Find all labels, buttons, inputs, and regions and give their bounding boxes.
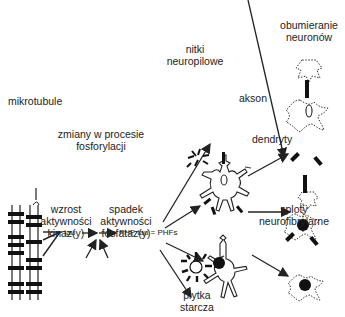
label-spadek-line2: aktywności xyxy=(96,215,156,227)
label-wzrost-line1: wzrost xyxy=(36,203,96,215)
label-akson: akson xyxy=(239,92,267,104)
label-spadek: spadek aktywności fosfataz(y) xyxy=(96,203,156,239)
label-nitki: nitki neuropilowe xyxy=(165,43,225,67)
label-plytka-line1: płytka xyxy=(172,289,222,301)
label-obumieranie-line1: obumieranie xyxy=(276,19,342,31)
label-spadek-line1: spadek xyxy=(96,203,156,215)
label-wzrost-line2: aktywności xyxy=(36,215,96,227)
label-plytka-line2: starcza xyxy=(172,301,222,313)
label-obumieranie-line2: neuronów xyxy=(276,31,342,43)
label-sploty-line2: neurofibrylarne xyxy=(249,215,339,227)
label-zmiany: zmiany w procesie fosforylacji xyxy=(56,128,146,152)
label-sploty-line1: sploty xyxy=(249,203,339,215)
label-dendryty: dendryty xyxy=(252,133,292,145)
senile-plaque-icon xyxy=(181,252,212,282)
label-wzrost-line3: kinaz(y) xyxy=(36,227,96,239)
label-mikrotubule: mikrotubule xyxy=(8,95,62,107)
label-obumieranie: obumieranie neuronów xyxy=(276,19,342,43)
label-zmiany-line2: fosforylacji xyxy=(56,140,146,152)
label-zmiany-line1: zmiany w procesie xyxy=(56,128,146,140)
label-plytka: płytka starcza xyxy=(172,289,222,313)
label-spadek-line3: fosfataz(y) xyxy=(96,227,156,239)
label-nitki-line2: neuropilowe xyxy=(165,55,225,67)
label-wzrost: wzrost aktywności kinaz(y) xyxy=(36,203,96,239)
label-nitki-line1: nitki xyxy=(165,43,225,55)
label-sploty: sploty neurofibrylarne xyxy=(249,203,339,227)
